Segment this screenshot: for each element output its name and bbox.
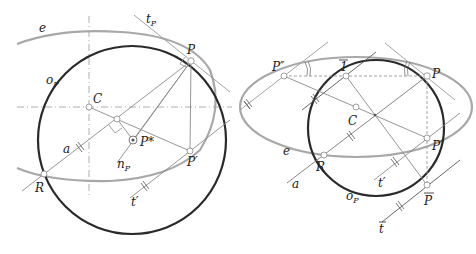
- label-e-right: e: [283, 144, 290, 158]
- point-Pprime: [187, 148, 193, 154]
- pmark-5: [244, 101, 250, 109]
- parallel-mark-a2: [78, 142, 84, 150]
- point-R: [41, 171, 47, 177]
- label-tP: tP: [146, 12, 157, 28]
- right-angle-mark: [109, 125, 122, 133]
- point-C: [86, 104, 92, 110]
- right-figure: P″ 1 P C P′ e R a t′ oP P t: [240, 42, 472, 236]
- label-Pbar: P: [423, 194, 433, 208]
- label-Pstar: P*: [139, 135, 154, 149]
- label-nP: nP: [117, 157, 131, 173]
- label-tprime: t′: [131, 195, 139, 209]
- ellipse-construction-figure: e tP P oP C P* nP P′ a R t′: [0, 0, 476, 254]
- label-a: a: [63, 142, 70, 156]
- point-intersection: [374, 114, 377, 117]
- label-oP-right: oP: [346, 189, 359, 205]
- label-oP: oP: [46, 73, 59, 89]
- line-P-Pprime: [190, 61, 191, 151]
- label-C-right: C: [348, 114, 357, 128]
- point-midpoint: [114, 116, 120, 122]
- label-R: R: [34, 181, 44, 195]
- line-P-Pstar: [133, 61, 191, 140]
- point-R-right: [321, 152, 327, 158]
- line-tbar: [382, 160, 460, 222]
- parallel-mark-t2: [143, 181, 149, 189]
- point-C-right: [353, 104, 359, 110]
- point-P: [188, 58, 194, 64]
- label-Pdbl: P″: [271, 60, 285, 74]
- label-e: e: [39, 21, 46, 35]
- circle-oP-right: [308, 60, 444, 196]
- point-Pstar-inner: [131, 138, 134, 141]
- tangent-tP: [134, 15, 230, 92]
- label-P: P: [186, 43, 196, 57]
- point-P-right: [424, 73, 430, 79]
- label-Pprime: P′: [186, 155, 198, 169]
- label-R-right: R: [315, 160, 325, 174]
- line-onebar-Pbar: [346, 76, 427, 185]
- label-P-right: P: [431, 67, 441, 81]
- angle-arc-Pdbl: [305, 62, 308, 76]
- label-Pprime-right: P′: [431, 139, 443, 153]
- label-C: C: [93, 92, 102, 106]
- parallel-mark-t: [141, 183, 147, 191]
- label-a-right: a: [292, 177, 299, 191]
- point-Pbar: [424, 182, 430, 188]
- point-Pprime-right: [424, 135, 430, 141]
- angle-arc-Pdbl2: [308, 61, 311, 76]
- label-one-bar: 1: [340, 60, 348, 74]
- left-figure: e tP P oP C P* nP P′ a R t′: [17, 12, 232, 234]
- label-tbar: t: [379, 222, 384, 236]
- label-tprime-right: t′: [378, 176, 386, 190]
- tangent-P: [385, 43, 455, 100]
